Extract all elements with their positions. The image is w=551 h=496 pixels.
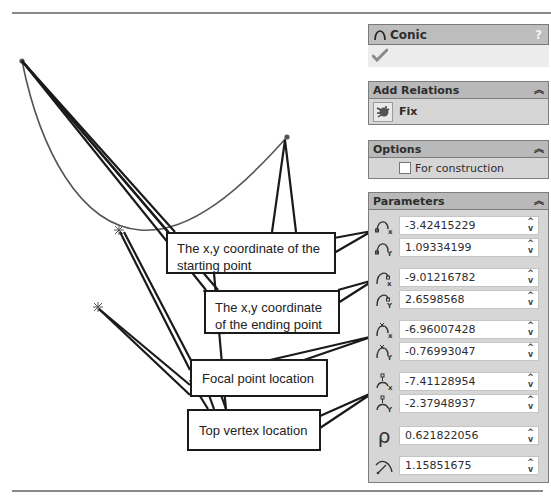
spinner[interactable]: ^v <box>527 322 534 336</box>
spinner[interactable]: ^v <box>527 292 534 306</box>
top-vertex-y-icon: Y <box>369 392 399 414</box>
callout-end-line2: of the ending point <box>215 316 338 333</box>
conic-property-manager: Conic ? Add Relations ︽ Fix Options ︽ <box>368 24 549 483</box>
callout-start-line1: The x,y coordinate of the <box>177 240 334 257</box>
svg-text:x: x <box>388 332 393 339</box>
param-row-start-y: Y 1.09334199 ^v <box>369 236 548 258</box>
svg-text:x: x <box>388 228 393 235</box>
callout-top-vertex: Top vertex location <box>187 409 321 451</box>
param-row-vertex-y: Y -2.37948937 ^v <box>369 392 548 414</box>
collapse-icon[interactable]: ︽ <box>534 145 543 153</box>
svg-text:Y: Y <box>386 354 393 361</box>
spinner[interactable]: ^v <box>527 459 534 473</box>
callout-start-point: The x,y coordinate of the starting point <box>166 232 336 274</box>
panel-title-bar: Conic ? <box>368 24 549 45</box>
param-row-rho: ρ 0.621822056 ^v <box>369 423 548 448</box>
collapse-icon[interactable]: ︽ <box>534 86 543 94</box>
for-construction-label: For construction <box>415 162 504 175</box>
add-relations-title: Add Relations <box>373 84 459 97</box>
spinner[interactable]: ^v <box>527 240 534 254</box>
spinner[interactable]: ^v <box>527 396 534 410</box>
conic-icon <box>372 25 388 44</box>
vertex-x-input[interactable]: -7.41128954 ^v <box>399 372 539 391</box>
focal-x-input[interactable]: -6.96007428 ^v <box>399 320 539 339</box>
svg-text:Y: Y <box>386 302 393 309</box>
start-y-input[interactable]: 1.09334199 ^v <box>399 238 539 257</box>
parameters-header[interactable]: Parameters ︽ <box>368 192 549 210</box>
param-row-end-x: x -9.01216782 ^v <box>369 266 548 288</box>
callout-end-point: The x,y coordinate of the ending point <box>204 290 340 334</box>
options-body: For construction <box>368 158 549 179</box>
svg-text:Y: Y <box>386 406 393 413</box>
svg-text:Y: Y <box>386 250 393 257</box>
callout-focal-text: Focal point location <box>202 370 326 387</box>
rho-input[interactable]: 0.621822056 ^v <box>399 426 539 445</box>
start-point-y-icon: Y <box>369 236 399 258</box>
svg-text:x: x <box>388 384 393 391</box>
options-title: Options <box>373 143 421 156</box>
ok-row <box>368 45 549 67</box>
svg-text:x: x <box>387 280 392 287</box>
parameters-title: Parameters <box>373 195 445 208</box>
param-row-end-y: Y 2.6598568 ^v <box>369 288 548 310</box>
add-relations-header[interactable]: Add Relations ︽ <box>368 81 549 99</box>
callout-start-line2: starting point <box>177 257 334 274</box>
curvature-icon <box>369 455 399 477</box>
add-relations-body: Fix <box>368 99 549 125</box>
vertex-y-input[interactable]: -2.37948937 ^v <box>399 394 539 413</box>
param-row-vertex-x: x -7.41128954 ^v <box>369 370 548 392</box>
param-row-curvature: 1.15851675 ^v <box>369 453 548 478</box>
focal-point-y-icon: Y <box>369 340 399 362</box>
options-header[interactable]: Options ︽ <box>368 140 549 158</box>
collapse-icon[interactable]: ︽ <box>534 197 543 205</box>
spinner[interactable]: ^v <box>527 374 534 388</box>
fix-anchor-icon[interactable] <box>373 102 393 122</box>
end-x-input[interactable]: -9.01216782 ^v <box>399 268 539 287</box>
checkmark-icon[interactable] <box>372 47 388 66</box>
fix-label: Fix <box>399 105 417 118</box>
end-y-input[interactable]: 2.6598568 ^v <box>399 290 539 309</box>
spinner[interactable]: ^v <box>527 344 534 358</box>
end-point-y-icon: Y <box>369 288 399 310</box>
end-point-x-icon: x <box>369 266 399 288</box>
start-point-x-icon: x <box>369 214 399 236</box>
callout-vertex-text: Top vertex location <box>199 422 319 439</box>
param-row-focal-x: x -6.96007428 ^v <box>369 318 548 340</box>
fix-relation-item[interactable]: Fix <box>369 99 548 124</box>
parameters-body: x -3.42415229 ^v Y 1.09334199 ^v x -9.01… <box>368 210 549 483</box>
param-row-start-x: x -3.42415229 ^v <box>369 214 548 236</box>
for-construction-option[interactable]: For construction <box>369 158 548 178</box>
help-button[interactable]: ? <box>535 28 542 42</box>
curvature-input[interactable]: 1.15851675 ^v <box>399 456 539 475</box>
start-x-input[interactable]: -3.42415229 ^v <box>399 216 539 235</box>
spinner[interactable]: ^v <box>527 270 534 284</box>
focal-point-x-icon: x <box>369 318 399 340</box>
for-construction-checkbox[interactable] <box>399 162 411 174</box>
rho-icon: ρ <box>369 425 399 447</box>
spinner[interactable]: ^v <box>527 429 534 443</box>
callout-focal-point: Focal point location <box>190 359 328 397</box>
top-vertex-marker[interactable] <box>114 225 124 235</box>
focal-y-input[interactable]: -0.76993047 ^v <box>399 342 539 361</box>
param-row-focal-y: Y -0.76993047 ^v <box>369 340 548 362</box>
panel-title: Conic <box>390 28 427 42</box>
top-vertex-x-icon: x <box>369 370 399 392</box>
callout-end-line1: The x,y coordinate <box>215 299 338 316</box>
start-point[interactable] <box>284 134 289 139</box>
conic-curve[interactable] <box>22 61 287 230</box>
spinner[interactable]: ^v <box>527 218 534 232</box>
